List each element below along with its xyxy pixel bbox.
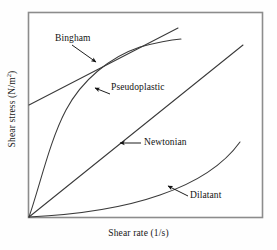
curve-label-dilatant: Dilatant (190, 190, 221, 200)
rheology-chart-figure: Bingham Pseudoplastic Newtonian Dilatant… (0, 0, 277, 250)
y-axis-title-wrapper: Shear stress (N/m2) (0, 0, 24, 218)
plot-canvas (0, 0, 277, 250)
curve-label-newtonian: Newtonian (144, 137, 187, 147)
y-axis-title: Shear stress (N/m2) (7, 71, 17, 148)
y-axis-title-text: Shear stress (N/m (7, 77, 17, 147)
y-axis-title-close-paren: ) (7, 71, 17, 74)
y-axis-title-superscript: 2 (5, 74, 12, 77)
curve-label-pseudoplastic: Pseudoplastic (111, 82, 165, 92)
x-axis-title: Shear rate (1/s) (0, 228, 277, 238)
curve-label-bingham: Bingham (55, 33, 91, 43)
